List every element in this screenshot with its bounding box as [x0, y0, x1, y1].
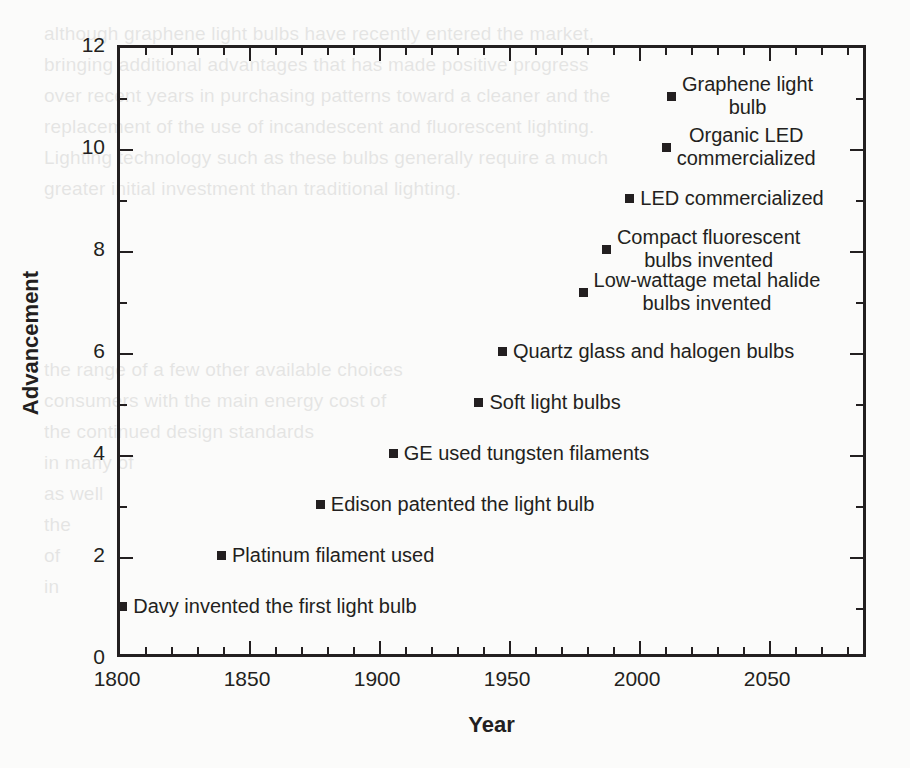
x-axis-tick-minor [691, 647, 693, 654]
y-axis-tick-minor [120, 506, 127, 508]
x-axis-tick-minor [327, 48, 329, 55]
data-point-marker [316, 500, 325, 509]
data-point-marker [625, 194, 634, 203]
x-axis-tick-minor [717, 48, 719, 55]
x-axis-tick-minor [795, 48, 797, 55]
x-tick-label: 2050 [744, 667, 791, 691]
x-axis-tick-minor [171, 647, 173, 654]
x-axis-tick-minor [405, 48, 407, 55]
x-axis-tick-minor [587, 647, 589, 654]
x-axis-tick-minor [613, 647, 615, 654]
bleedthrough-line: in [44, 571, 59, 602]
y-axis-tick-major [120, 557, 133, 559]
data-point-marker [389, 449, 398, 458]
data-point-label: Platinum filament used [232, 544, 434, 567]
x-axis-tick-minor [353, 647, 355, 654]
data-point-label: Graphene light bulb [682, 73, 813, 119]
y-tick-label: 0 [45, 645, 105, 669]
x-axis-tick-minor [665, 48, 667, 55]
x-axis-tick-major [379, 641, 381, 654]
y-axis-tick-major [850, 557, 863, 559]
x-axis-tick-minor [483, 48, 485, 55]
x-axis-tick-minor [275, 647, 277, 654]
data-point-label: Davy invented the first light bulb [133, 595, 417, 618]
x-tick-label: 1800 [94, 667, 141, 691]
x-axis-tick-minor [535, 647, 537, 654]
y-axis-tick-major [120, 251, 133, 253]
x-axis-tick-major [769, 641, 771, 654]
x-axis-tick-minor [405, 647, 407, 654]
x-axis-tick-minor [561, 48, 563, 55]
x-axis-tick-minor [457, 647, 459, 654]
x-axis-tick-major [509, 48, 511, 61]
data-point-marker [474, 398, 483, 407]
x-axis-tick-minor [197, 647, 199, 654]
y-axis-tick-minor [120, 302, 127, 304]
y-tick-label: 10 [45, 135, 105, 159]
x-axis-tick-minor [301, 647, 303, 654]
x-axis-tick-minor [223, 647, 225, 654]
x-tick-label: 1850 [224, 667, 271, 691]
x-axis-tick-minor [483, 647, 485, 654]
y-axis-tick-major [850, 353, 863, 355]
x-axis-tick-minor [223, 48, 225, 55]
data-point-marker [579, 288, 588, 297]
data-point-label: Quartz glass and halogen bulbs [513, 340, 794, 363]
y-axis-tick-major [120, 353, 133, 355]
y-axis-tick-minor [856, 404, 863, 406]
data-point-label: Edison patented the light bulb [331, 493, 595, 516]
x-axis-tick-minor [743, 48, 745, 55]
y-axis-tick-major [850, 149, 863, 151]
y-axis-tick-minor [120, 98, 127, 100]
y-axis-tick-major [850, 455, 863, 457]
y-axis-tick-minor [120, 404, 127, 406]
x-axis-tick-minor [691, 48, 693, 55]
data-point-marker [667, 92, 676, 101]
bleedthrough-line: as well [44, 478, 103, 509]
x-tick-label: 1900 [354, 667, 401, 691]
y-axis-tick-minor [120, 200, 127, 202]
data-point-marker [498, 347, 507, 356]
y-axis-title: Advancement [18, 243, 44, 443]
data-point-label: Low-wattage metal halide bulbs invented [594, 269, 821, 315]
x-axis-tick-minor [145, 647, 147, 654]
chart-page: although graphene light bulbs have recen… [0, 0, 910, 768]
x-axis-tick-minor [743, 647, 745, 654]
data-point-marker [662, 143, 671, 152]
x-axis-tick-minor [301, 48, 303, 55]
x-axis-tick-minor [847, 48, 849, 55]
x-tick-label: 1950 [484, 667, 531, 691]
x-axis-tick-major [639, 641, 641, 654]
x-axis-tick-minor [275, 48, 277, 55]
data-point-label: Soft light bulbs [489, 391, 620, 414]
y-axis-tick-minor [856, 302, 863, 304]
x-axis-tick-minor [821, 647, 823, 654]
y-axis-tick-minor [856, 98, 863, 100]
x-axis-tick-minor [717, 647, 719, 654]
y-tick-label: 2 [45, 543, 105, 567]
x-axis-tick-minor [561, 647, 563, 654]
y-tick-label: 4 [45, 441, 105, 465]
x-axis-tick-minor [821, 48, 823, 55]
data-point-marker [118, 602, 127, 611]
x-axis-tick-minor [847, 647, 849, 654]
y-axis-tick-major [850, 251, 863, 253]
x-axis-tick-minor [145, 48, 147, 55]
x-axis-title: Year [117, 712, 866, 738]
data-point-label: Compact fluorescent bulbs invented [617, 226, 800, 272]
data-point-label: GE used tungsten filaments [404, 442, 650, 465]
y-tick-label: 12 [45, 33, 105, 57]
y-axis-tick-minor [856, 608, 863, 610]
x-axis-tick-minor [171, 48, 173, 55]
x-axis-tick-minor [457, 48, 459, 55]
x-axis-tick-minor [431, 647, 433, 654]
y-tick-label: 6 [45, 339, 105, 363]
x-axis-tick-minor [535, 48, 537, 55]
y-axis-tick-major [120, 455, 133, 457]
x-axis-tick-minor [353, 48, 355, 55]
x-axis-tick-minor [197, 48, 199, 55]
x-axis-tick-major [639, 48, 641, 61]
y-axis-tick-major [120, 149, 133, 151]
x-axis-tick-minor [327, 647, 329, 654]
x-tick-label: 2000 [614, 667, 661, 691]
